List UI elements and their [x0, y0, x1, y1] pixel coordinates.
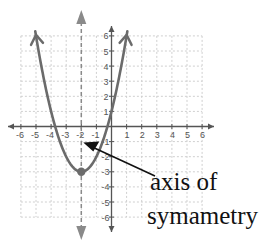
x-axis-left-arrow-icon — [8, 124, 14, 130]
y-tick-label: 6 — [104, 31, 109, 41]
y-tick-label: -5 — [102, 198, 110, 208]
x-tick-label: 2 — [140, 130, 145, 140]
annotation-line1: axis of — [150, 168, 218, 195]
y-tick-label: -3 — [102, 167, 110, 177]
y-tick-label: 4 — [104, 62, 109, 72]
x-tick-label: 4 — [170, 130, 175, 140]
symmetry-down-arrow-icon — [76, 226, 86, 240]
y-axis-up-arrow-icon — [109, 26, 115, 32]
y-axis-down-arrow-icon — [109, 226, 115, 232]
annotation-line2: symametry — [147, 202, 259, 229]
y-tick-label: -6 — [102, 213, 110, 223]
y-tick-label: 3 — [104, 77, 109, 87]
x-tick-label: 6 — [200, 130, 205, 140]
y-tick-label: 5 — [104, 47, 109, 57]
vertex-point — [77, 168, 85, 176]
y-tick-label: 2 — [104, 92, 109, 102]
y-tick-label: 1 — [104, 107, 109, 117]
x-tick-label: -4 — [46, 130, 54, 140]
x-tick-label: -6 — [16, 130, 24, 140]
x-tick-label: -1 — [91, 130, 99, 140]
y-tick-label: -4 — [102, 182, 110, 192]
x-tick-label: 3 — [155, 130, 160, 140]
x-tick-label: 5 — [185, 130, 190, 140]
x-tick-label: 1 — [125, 130, 130, 140]
x-axis-right-arrow-icon — [208, 124, 214, 130]
vertex-dot — [77, 168, 85, 176]
parabola-chart: -6-5-4-3-2-1123456654321-1-2-3-4-5-6 axi… — [0, 0, 272, 246]
x-tick-label: -3 — [61, 130, 69, 140]
symmetry-up-arrow-icon — [76, 10, 86, 24]
x-tick-label: -5 — [31, 130, 39, 140]
x-tick-label: -2 — [76, 130, 84, 140]
